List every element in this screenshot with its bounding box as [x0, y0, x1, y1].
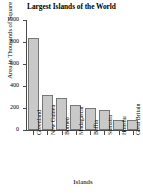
y-axis-tick: 200: [23, 108, 27, 109]
x-axis-category-label: Madagascar: [78, 106, 85, 135]
x-axis-category-label: Great Britain: [135, 104, 142, 136]
y-axis-tick: 600: [23, 64, 27, 65]
y-axis-tick-label: 400: [10, 82, 19, 89]
y-axis-tick-label: 800: [10, 38, 19, 45]
x-axis-category-labels: GreenlandNew GuineaBorneoMadagascarBaffi…: [26, 131, 140, 176]
y-axis-tick-label: 600: [10, 60, 19, 67]
y-axis-tick-label: 0: [16, 126, 19, 133]
x-axis-category-label: Sumatra: [107, 115, 114, 135]
y-axis-tick-label: 1000: [7, 16, 19, 23]
x-axis-title: Islands: [26, 177, 140, 186]
y-axis-tick: 1000: [23, 20, 27, 21]
x-axis-category-label: New Guinea: [50, 105, 57, 135]
chart-title: Largest Islands of the World: [0, 2, 143, 11]
y-axis-tick: 800: [23, 42, 27, 43]
bar-chart-figure: Largest Islands of the World Area in Tho…: [0, 0, 143, 194]
y-axis-tick-label: 200: [10, 104, 19, 111]
x-axis-category-label: Borneo: [64, 117, 71, 135]
x-axis-category-label: Greenland: [36, 110, 43, 135]
x-axis-category-label: Baffin: [93, 120, 100, 135]
y-axis-tick: 400: [23, 86, 27, 87]
x-axis-category-label: Honshu: [121, 116, 128, 135]
